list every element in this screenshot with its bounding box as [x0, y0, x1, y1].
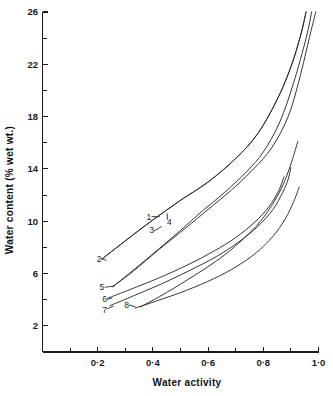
- curve-label-3: 3: [149, 225, 154, 235]
- x-axis-tick-label: 0·6: [201, 357, 215, 368]
- y-axis-tick-label: 6: [33, 268, 38, 279]
- curve-label-8: 8: [124, 300, 129, 310]
- x-axis-tick-label: 1·0: [312, 357, 326, 368]
- x-axis-tick-label: 0·4: [146, 357, 160, 368]
- leader-line-7: [107, 306, 114, 309]
- y-axis-tick-label: 26: [27, 6, 38, 17]
- curve-label-4: 4: [167, 217, 172, 227]
- x-axis-tick-label: 0·8: [256, 357, 270, 368]
- isotherm-curve-4: [113, 12, 316, 287]
- isotherm-curve-1: [102, 12, 306, 259]
- leader-line-8: [129, 305, 136, 307]
- y-axis-tick-label: 14: [27, 163, 38, 174]
- isotherm-curve-2: [102, 12, 306, 259]
- y-axis-tick-label: 10: [27, 216, 38, 227]
- leader-line-3: [154, 226, 162, 231]
- chart-curves: [102, 12, 316, 308]
- curve-label-1: 1: [146, 212, 151, 222]
- curve-label-7: 7: [102, 305, 107, 315]
- water-sorption-isotherm-chart: 0·20·40·60·81·0 261014182226 12345678 Wa…: [0, 0, 333, 396]
- y-axis-title: Water content (% wet wt.): [4, 126, 15, 254]
- curve-label-6: 6: [102, 294, 107, 304]
- y-axis-tick-label: 22: [27, 59, 38, 70]
- curve-label-2: 2: [97, 254, 102, 264]
- y-axis-tick-labels: 261014182226: [27, 6, 38, 331]
- x-axis-tick-labels: 0·20·40·60·81·0: [91, 357, 326, 368]
- x-axis-tick-label: 0·2: [91, 357, 105, 368]
- x-axis-title: Water activity: [153, 377, 222, 388]
- chart-axes: [43, 12, 319, 352]
- isotherm-curve-6: [107, 177, 284, 299]
- y-axis-tick-label: 2: [33, 320, 38, 331]
- y-axis-tick-label: 18: [27, 111, 38, 122]
- curve-label-5: 5: [99, 282, 104, 292]
- isotherm-curve-3: [113, 12, 312, 287]
- chart-tick-marks: [43, 12, 319, 352]
- curve-label-leader-lines: [101, 213, 167, 308]
- isotherm-curve-5: [140, 141, 297, 306]
- sorption-isotherm-figure: 0·20·40·60·81·0 261014182226 12345678 Wa…: [0, 0, 333, 396]
